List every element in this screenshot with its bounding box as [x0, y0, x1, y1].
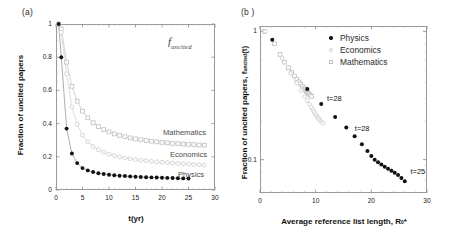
legend-marker-filled-circle-icon [324, 36, 338, 40]
panel-a-ytick-5: 1 [32, 20, 52, 27]
legend-item-economics[interactable]: Economics [324, 44, 387, 56]
legend-item-physics[interactable]: Physics [324, 32, 387, 44]
yaxis-subscript: uncited [242, 54, 248, 72]
legend-marker-open-circle-icon [324, 48, 338, 52]
annotation-0: t=28 [327, 94, 342, 103]
panel-b-yaxis-title: Fraction of uncited papers, funcited(t) [240, 25, 249, 200]
panel-a-xtick-6: 30 [205, 194, 225, 201]
annotation-2: t=25 [411, 167, 426, 176]
panel-b-xtick-1: 10 [306, 197, 326, 204]
panel-b-xtick-2: 20 [361, 197, 381, 204]
panel-a-yaxis-title: Fraction of uncited papers [16, 25, 25, 185]
panel-a-xtick-0: 0 [46, 194, 66, 201]
panel-a-xtick-2: 10 [99, 194, 119, 201]
panel-b-xtick-3: 30 [417, 197, 437, 204]
panel-a-ytick-2: 0.4 [32, 120, 52, 127]
legend-item-mathematics[interactable]: Mathematics [324, 56, 387, 68]
panel-a-ytick-0: 0 [32, 186, 52, 193]
panel-a-xaxis-title: t(yr) [96, 214, 176, 223]
panel-b: (b ) Average reference list length, R0* … [228, 0, 456, 237]
figure-root: (a) funcited t(yr) Fraction of uncited p… [0, 0, 456, 237]
legend-marker-open-square-icon [324, 60, 338, 64]
panel-b-xtick-0: 0 [250, 197, 270, 204]
curve-label-economics: Economics [170, 150, 207, 159]
panel-b-ytick-0: 1 [239, 27, 257, 34]
legend-label-economics: Economics [340, 45, 381, 55]
panel-a-xtick-3: 15 [126, 194, 146, 201]
panel-a-ytick-3: 0.6 [32, 86, 52, 93]
panel-a-xtick-5: 25 [179, 194, 199, 201]
panel-a-xtick-1: 5 [73, 194, 93, 201]
legend-label-physics: Physics [340, 33, 369, 43]
panel-b-legend: PhysicsEconomicsMathematics [324, 32, 387, 68]
panel-a-ytick-1: 0.2 [32, 153, 52, 160]
curve-label-mathematics: Mathematics [163, 128, 206, 137]
panel-a-xtick-4: 20 [152, 194, 172, 201]
panel-a: (a) funcited t(yr) Fraction of uncited p… [0, 0, 228, 237]
xaxis-star: * [404, 217, 407, 226]
curve-label-physics: Physics [178, 170, 204, 179]
panel-a-ytick-4: 0.8 [32, 53, 52, 60]
panel-b-xaxis-title: Average reference list length, R0* [250, 217, 438, 226]
legend-label-mathematics: Mathematics [340, 57, 387, 67]
annotation-1: t=28 [355, 124, 370, 133]
panel-b-ytick-1: 0.1 [239, 156, 257, 163]
